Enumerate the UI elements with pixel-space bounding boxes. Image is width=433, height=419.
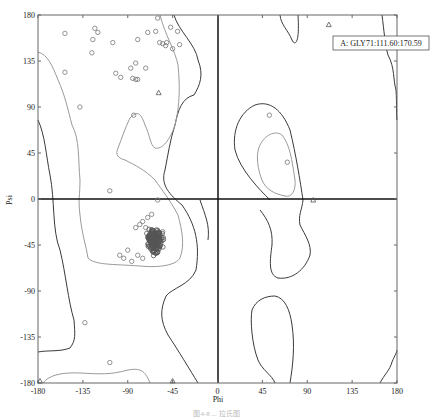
y-tick-label: 90: [27, 103, 35, 112]
y-tick-label: 0: [31, 195, 35, 204]
residue-point: [119, 75, 123, 79]
x-tick-label: -45: [167, 387, 178, 396]
residue-point: [108, 189, 112, 193]
residue-point: [78, 105, 82, 109]
residue-point: [91, 37, 95, 41]
residue-point: [136, 37, 140, 41]
residue-point: [177, 42, 181, 46]
residue-point: [90, 51, 94, 55]
residue-point: [130, 259, 134, 263]
x-tick-label: 90: [303, 387, 311, 396]
residue-point: [134, 225, 138, 229]
core-contour-lalpha: [257, 133, 295, 196]
x-tick-label: 45: [258, 387, 266, 396]
residue-point: [145, 30, 149, 34]
y-tick-label: -180: [20, 379, 35, 388]
x-tick-label: -90: [122, 387, 133, 396]
x-tick-label: -135: [76, 387, 91, 396]
y-tick-label: 180: [23, 11, 35, 20]
core-contour-beta: [38, 15, 183, 267]
residue-point: [134, 61, 138, 65]
residue-point: [267, 113, 271, 117]
x-axis-title: Phi: [213, 395, 224, 404]
residue-point: [144, 66, 148, 70]
residue-point: [175, 29, 179, 33]
x-tick-label: 180: [391, 387, 403, 396]
residue-point: [63, 70, 67, 74]
residue-point: [114, 71, 118, 75]
y-tick-label: 45: [27, 149, 35, 158]
glycine-triangle-marker: [156, 90, 161, 95]
residue-point: [153, 29, 157, 33]
allowed-contour-right-top: [382, 15, 397, 120]
x-tick-label: 135: [346, 387, 358, 396]
residue-point: [141, 256, 145, 260]
allowed-contour-top-mid: [280, 15, 298, 43]
core-contour-bottom: [43, 369, 150, 383]
residue-point: [131, 76, 135, 80]
residue-point: [96, 30, 100, 34]
residue-annotation: A: GLY71:111.60:170.59: [333, 36, 429, 50]
residue-point: [126, 248, 130, 252]
residue-point: [157, 40, 161, 44]
residue-point: [93, 26, 97, 30]
residue-point: [111, 40, 115, 44]
axis-tick-labels: -180-135-90-450459013518018013590450-45-…: [20, 11, 403, 396]
residue-point: [285, 160, 289, 164]
glycine-triangle-marker: [326, 22, 331, 27]
residue-point: [83, 320, 87, 324]
allowed-contour-lalpha-lower: [251, 296, 293, 383]
residue-point: [63, 31, 67, 35]
y-tick-label: -45: [24, 241, 35, 250]
residue-point: [145, 215, 149, 219]
residue-point: [168, 25, 172, 29]
residue-point: [108, 360, 112, 364]
y-tick-label: -90: [24, 287, 35, 296]
allowed-contour-left-edge: [38, 120, 75, 352]
y-axis-title: Psi: [5, 194, 14, 205]
allowed-contour-right-bottom: [380, 350, 397, 383]
residue-point: [122, 256, 126, 260]
residue-point: [118, 253, 122, 257]
residue-point: [129, 66, 133, 70]
annotation-text: A: GLY71:111.60:170.59: [340, 39, 422, 48]
x-tick-label: -180: [31, 387, 46, 396]
residue-point: [138, 222, 142, 226]
ramachandran-plot: -180-135-90-450459013518018013590450-45-…: [0, 0, 433, 419]
residue-point: [149, 212, 153, 216]
glycine-triangle-marker: [311, 198, 316, 203]
allowed-contour-left-bottom: [200, 200, 208, 240]
y-tick-label: -135: [20, 333, 35, 342]
figure-caption: 图4-8 ... 拉氏图: [0, 408, 433, 418]
residue-point: [136, 253, 140, 257]
residue-point: [155, 16, 159, 20]
y-tick-label: 135: [23, 57, 35, 66]
